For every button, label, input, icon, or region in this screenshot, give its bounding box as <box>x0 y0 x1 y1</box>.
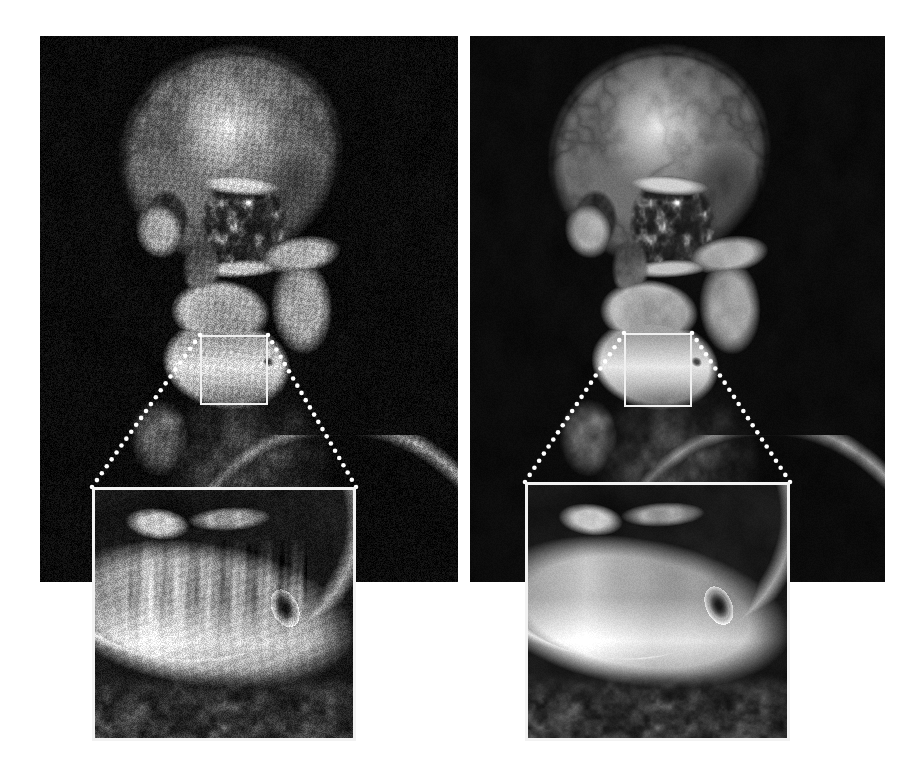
magnified-mandible-right <box>528 485 787 738</box>
roi-box-left <box>200 335 268 405</box>
magnified-mandible-left <box>95 490 353 738</box>
ct-comparison-figure <box>0 0 917 774</box>
magnified-inset-left <box>92 487 356 741</box>
roi-box-right <box>624 333 692 407</box>
magnified-inset-right <box>525 482 790 741</box>
